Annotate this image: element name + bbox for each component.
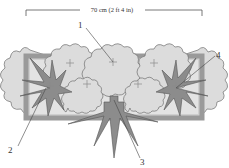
callout-4: 4 <box>216 50 221 60</box>
callout-2: 2 <box>8 145 13 155</box>
callout-3: 3 <box>140 157 145 167</box>
dimension-label: 70 cm (2 ft 4 in) <box>91 6 133 14</box>
callout-1: 1 <box>78 20 83 30</box>
diagram-canvas: 70 cm (2 ft 4 in) <box>0 0 229 168</box>
planting-diagram: 70 cm (2 ft 4 in) <box>0 0 229 168</box>
